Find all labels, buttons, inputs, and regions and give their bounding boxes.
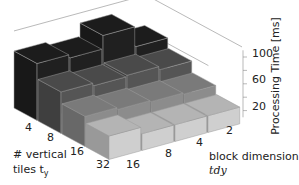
y-axis-label-line2: tdy <box>209 164 227 177</box>
z-axis-ticks <box>243 50 247 117</box>
z-tick-20: 20 <box>252 100 266 113</box>
z-axis-label: Processing Time [ms] <box>268 18 282 133</box>
row-label-32: 32 <box>96 158 110 171</box>
row-label-8: 8 <box>47 131 54 144</box>
y-axis-label-line1: block dimension <box>209 150 299 163</box>
col-label-8: 8 <box>165 147 172 160</box>
col-label-4: 4 <box>196 136 203 149</box>
col-label-16: 16 <box>126 158 140 171</box>
x-axis-label-line2: tiles ty <box>13 163 48 178</box>
col-label-2: 2 <box>226 124 233 137</box>
row-label-4: 4 <box>25 121 32 134</box>
row-label-16: 16 <box>70 145 84 158</box>
z-tick-60: 60 <box>252 73 266 86</box>
x-axis-label-line1: # vertical <box>13 148 67 161</box>
